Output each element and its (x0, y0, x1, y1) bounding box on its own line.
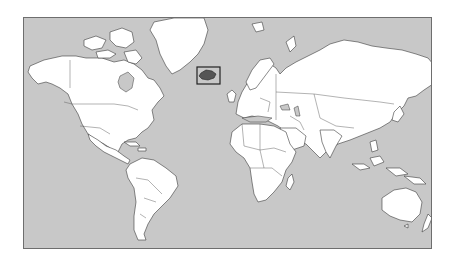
world-map (23, 17, 432, 249)
